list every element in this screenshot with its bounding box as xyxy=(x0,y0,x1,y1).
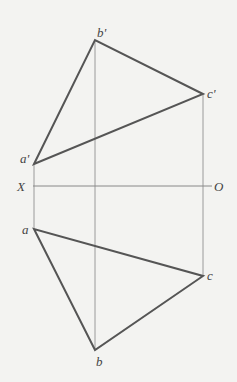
projection-diagram: b' c' a' X O a c b xyxy=(0,0,237,382)
label-b-prime: b' xyxy=(97,25,107,40)
label-b: b xyxy=(96,354,103,369)
front-view-triangle xyxy=(34,40,203,164)
diagram-svg: b' c' a' X O a c b xyxy=(0,0,237,382)
label-a: a xyxy=(22,222,29,237)
label-o: O xyxy=(214,179,224,194)
label-c-prime: c' xyxy=(207,86,216,101)
top-view-triangle xyxy=(34,229,203,350)
label-a-prime: a' xyxy=(20,151,30,166)
label-x: X xyxy=(16,179,26,194)
label-c: c xyxy=(207,268,213,283)
